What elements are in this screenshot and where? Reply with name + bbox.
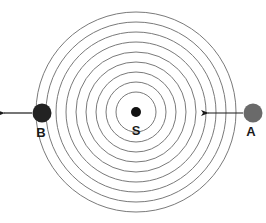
object-b: B bbox=[4, 104, 52, 141]
wavefront-diagram: BA S bbox=[0, 0, 266, 223]
object-b-circle bbox=[33, 104, 52, 123]
object-b-label: B bbox=[36, 125, 45, 140]
source-s: S bbox=[131, 107, 141, 138]
source-label: S bbox=[132, 123, 141, 138]
object-a-label: A bbox=[246, 124, 256, 139]
object-a-circle bbox=[244, 104, 263, 123]
source-dot bbox=[131, 107, 141, 117]
